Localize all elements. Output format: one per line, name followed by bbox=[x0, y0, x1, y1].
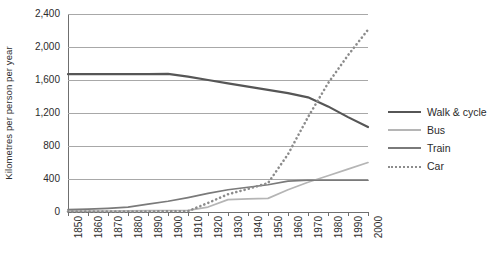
y-tick-label: 800 bbox=[0, 141, 60, 151]
legend-label-car: Car bbox=[427, 160, 444, 172]
x-tick-mark bbox=[308, 212, 309, 216]
x-tick-mark bbox=[248, 212, 249, 216]
y-tick-label: 2,000 bbox=[0, 42, 60, 52]
legend-swatch-car bbox=[388, 161, 421, 171]
plot-area bbox=[68, 14, 368, 212]
legend-swatch-walk-cycle bbox=[388, 107, 421, 117]
x-tick-label: 1880 bbox=[133, 216, 144, 262]
x-tick-label: 1900 bbox=[173, 216, 184, 262]
x-tick-mark bbox=[68, 212, 69, 216]
legend-swatch-train bbox=[388, 143, 421, 153]
x-tick-mark bbox=[348, 212, 349, 216]
legend-label-walk-cycle: Walk & cycle bbox=[427, 106, 487, 118]
x-tick-label: 1960 bbox=[293, 216, 304, 262]
y-tick-label: 400 bbox=[0, 174, 60, 184]
x-tick-label: 1980 bbox=[333, 216, 344, 262]
x-tick-label: 1920 bbox=[213, 216, 224, 262]
x-tick-mark bbox=[288, 212, 289, 216]
y-tick-label: 2,400 bbox=[0, 9, 60, 19]
legend-label-train: Train bbox=[427, 142, 451, 154]
legend-item-bus: Bus bbox=[388, 121, 496, 139]
x-tick-label: 1870 bbox=[113, 216, 124, 262]
x-tick-label: 1860 bbox=[93, 216, 104, 262]
x-tick-mark bbox=[88, 212, 89, 216]
x-tick-mark bbox=[188, 212, 189, 216]
x-tick-mark bbox=[368, 212, 369, 216]
x-tick-label: 1940 bbox=[253, 216, 264, 262]
x-tick-mark bbox=[108, 212, 109, 216]
legend-item-car: Car bbox=[388, 157, 496, 175]
x-tick-mark bbox=[148, 212, 149, 216]
legend-item-walk-cycle: Walk & cycle bbox=[388, 103, 496, 121]
series-line-bus bbox=[68, 163, 368, 212]
line-chart: Kilometres per person per year 04008001,… bbox=[0, 0, 499, 265]
x-tick-label: 1850 bbox=[73, 216, 84, 262]
x-tick-label: 1890 bbox=[153, 216, 164, 262]
x-tick-label: 1930 bbox=[233, 216, 244, 262]
gridline bbox=[68, 212, 368, 213]
x-tick-label: 2000 bbox=[373, 216, 384, 262]
series-line-train bbox=[68, 180, 368, 209]
y-tick-label: 1,200 bbox=[0, 108, 60, 118]
y-tick-label: 1,600 bbox=[0, 75, 60, 85]
y-tick-label: 0 bbox=[0, 207, 60, 217]
x-tick-mark bbox=[168, 212, 169, 216]
legend-swatch-bus bbox=[388, 125, 421, 135]
series-line-car bbox=[68, 30, 368, 212]
x-tick-label: 1910 bbox=[193, 216, 204, 262]
legend-label-bus: Bus bbox=[427, 124, 445, 136]
x-tick-label: 1970 bbox=[313, 216, 324, 262]
x-tick-mark bbox=[268, 212, 269, 216]
chart-legend: Walk & cycle Bus Train Car bbox=[388, 103, 496, 175]
x-tick-mark bbox=[328, 212, 329, 216]
x-tick-mark bbox=[208, 212, 209, 216]
x-tick-mark bbox=[228, 212, 229, 216]
legend-item-train: Train bbox=[388, 139, 496, 157]
x-tick-label: 1950 bbox=[273, 216, 284, 262]
x-tick-label: 1990 bbox=[353, 216, 364, 262]
series-line-walk-cycle bbox=[68, 74, 368, 127]
x-tick-mark bbox=[128, 212, 129, 216]
series-lines bbox=[68, 14, 368, 212]
